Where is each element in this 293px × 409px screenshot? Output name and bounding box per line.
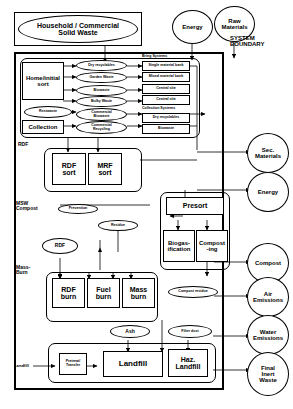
rdf-sort-box: RDF sort xyxy=(52,153,86,185)
output-water-emissions: Water Emissions xyxy=(247,315,289,355)
landfill-label: Landfill xyxy=(119,360,147,368)
stream-commercial-recycling: Commercial Recycling xyxy=(76,121,127,134)
presort-box: Presort xyxy=(166,197,224,215)
bring-systems-heading: Bring Systems xyxy=(142,54,202,60)
output-air-emissions: Air Emissions xyxy=(247,277,289,317)
filter-dust-label: Filter dust xyxy=(181,330,198,334)
system-boundary-line2: BOUNDARY xyxy=(230,41,264,47)
output-2-line1: Compost xyxy=(255,260,281,266)
massburn-side-line2: Burn xyxy=(16,270,28,275)
prevention-label: Prevention xyxy=(69,207,88,211)
mrf-sort-line1: MRF xyxy=(97,162,112,169)
msw-compost-side-label: MSW Compost xyxy=(16,198,46,214)
bring-item-1: Mixed material bank xyxy=(149,75,183,79)
compost-residue-label: Compost residue xyxy=(178,290,207,294)
collection-label: Collection xyxy=(28,124,57,130)
bring-item-0: Single material bank xyxy=(149,64,184,68)
ash-ellipse: Ash xyxy=(110,325,150,338)
commercial-stream-0-line2: Biowaste xyxy=(94,115,110,119)
output-final-inert-waste: Final Inert Waste xyxy=(247,352,289,396)
rdf-burn-line2: burn xyxy=(61,293,77,300)
stream-dry-recyclables: Dry recyclables xyxy=(76,60,127,71)
commercial-stream-1-line2: Recycling xyxy=(93,128,110,132)
landfill-box: Landfill xyxy=(103,351,163,377)
filter-dust-ellipse: Filter dust xyxy=(168,325,212,338)
output-4-line2: Emissions xyxy=(253,335,283,341)
restwaste-label: Restwaste xyxy=(39,110,57,114)
fuel-burn-line2: burn xyxy=(96,293,112,300)
mrf-sort-box: MRF sort xyxy=(88,153,122,185)
biogas-line2: ification xyxy=(167,246,190,252)
stream-label-3: Bulky Waste xyxy=(91,100,112,104)
stream-bulky-waste: Bulky Waste xyxy=(76,96,127,107)
home-sort-line2: sort xyxy=(37,81,48,87)
fuel-burn-box: Fuel burn xyxy=(87,278,120,308)
hazardous-landfill-box: Haz. Landfill xyxy=(168,349,208,377)
stream-label-0: Dry recyclables xyxy=(88,64,115,68)
restwaste-ellipse: Restwaste xyxy=(24,106,72,118)
collection-box: Collection xyxy=(22,120,64,134)
mass-burn-box: Mass burn xyxy=(122,278,155,308)
bring-system-single-material-bank: Single material bank xyxy=(142,61,190,71)
bring-system-mixed-material-bank: Mixed material bank xyxy=(142,72,190,82)
output-energy: Energy xyxy=(247,172,289,212)
rdf-side-text: RDF xyxy=(18,142,28,147)
residue-ellipse: Residue xyxy=(98,220,138,231)
stream-biowaste: Biowaste xyxy=(76,85,127,96)
collection-item-1: Biowaste xyxy=(158,127,174,131)
biogasification-box: Biogas- ification xyxy=(163,230,195,262)
pretreat-transfer-box: Pretreat/ Transfer xyxy=(59,353,87,375)
mrf-sort-line2: sort xyxy=(98,169,111,176)
collection-item-0: Dry recyclables xyxy=(153,116,180,120)
rdf-feed-ellipse: RDF xyxy=(42,238,78,254)
residue-label: Residue xyxy=(111,224,125,228)
collection-system-dry-recyclables: Dry recyclables xyxy=(142,113,190,123)
compost-line2: -ing xyxy=(207,246,218,252)
bring-system-central-site-2: Central site xyxy=(142,95,190,105)
fuel-burn-line1: Fuel xyxy=(96,286,110,293)
rdf-sort-line2: sort xyxy=(62,169,75,176)
output-3-line2: Emissions xyxy=(253,297,283,303)
household-commercial-solid-waste: Household / Commercial Solid Waste xyxy=(18,15,138,43)
solid-waste-container: Household / Commercial Solid Waste xyxy=(14,12,142,46)
massburn-side-label: Mass- Burn xyxy=(16,262,46,278)
collection-systems-heading-text: Collection Systems xyxy=(142,107,175,111)
mass-burn-line2: burn xyxy=(131,293,147,300)
bring-item-3: Central site xyxy=(156,98,176,102)
stream-commercial-biowaste: Commercial Biowaste xyxy=(76,108,127,121)
rdf-sort-line1: RDF xyxy=(62,162,76,169)
energy-input-label: Energy xyxy=(182,24,202,30)
stream-label-2: Biowaste xyxy=(94,89,110,93)
solid-waste-line2: Solid Waste xyxy=(58,29,97,36)
landfill-side-text: Landfill xyxy=(14,364,29,368)
landfill-side-label: Landfill xyxy=(14,362,42,370)
output-1-line1: Energy xyxy=(258,189,278,195)
compost-residue-ellipse: Compost residue xyxy=(168,286,218,298)
pretreat-line2: Transfer xyxy=(66,364,80,368)
output-5-line3: Waste xyxy=(259,377,276,383)
output-0-line2: Materials xyxy=(255,153,281,159)
stream-label-1: Garden Waste xyxy=(89,76,113,80)
stream-garden-waste: Garden Waste xyxy=(76,72,127,83)
presort-label: Presort xyxy=(183,202,208,209)
bring-item-2: Central site xyxy=(156,87,176,91)
rdf-feed-label: RDF xyxy=(55,243,65,248)
bring-systems-heading-text: Bring Systems xyxy=(142,55,167,59)
energy-input-circle: Energy xyxy=(172,10,213,44)
collection-systems-heading: Collection Systems xyxy=(142,106,204,112)
prevention-ellipse: Prevention xyxy=(58,204,98,214)
msw-side-line2: Compost xyxy=(16,206,38,211)
mass-burn-line1: Mass xyxy=(130,286,148,293)
haz-line1: Haz. xyxy=(181,356,195,363)
system-flow-diagram: Household / Commercial Solid Waste Energ… xyxy=(0,0,293,409)
ash-label: Ash xyxy=(125,329,134,334)
composting-box: Compost -ing xyxy=(196,230,228,262)
home-initial-sort-box: Home/initial sort xyxy=(22,62,64,100)
rdf-side-label: RDF xyxy=(18,141,42,148)
bring-system-central-site-1: Central site xyxy=(142,84,190,94)
haz-line2: Landfill xyxy=(176,363,201,370)
rdf-burn-box: RDF burn xyxy=(52,278,85,308)
output-sec-materials: Sec. Materials xyxy=(247,133,289,173)
system-boundary-label: SYSTEM BOUNDARY xyxy=(230,30,290,52)
solid-waste-line1: Household / Commercial xyxy=(37,22,119,29)
